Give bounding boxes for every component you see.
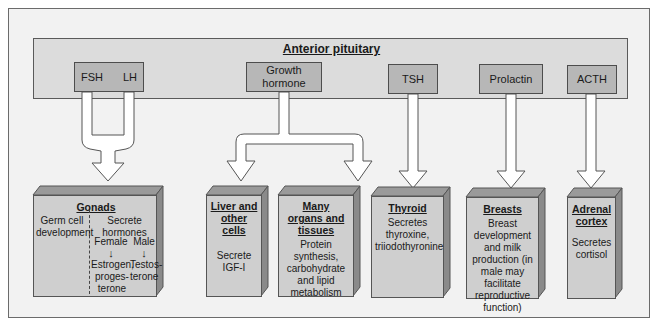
male-hormones-text: Testos- terone — [130, 259, 158, 283]
male-arrow-icon: ↓ — [130, 247, 158, 259]
liver-title: Liver and other cells — [207, 200, 261, 236]
gonads-divider — [89, 210, 90, 294]
adrenal-text: Secretes cortisol — [568, 237, 615, 261]
germ-cell-text: Germ cell development — [36, 215, 88, 239]
organs-title: Many organs and tissues — [279, 200, 353, 236]
gonads-title: Gonads — [34, 201, 158, 213]
female-hormones-text: Estrogen, proges- terone — [91, 259, 133, 295]
adrenal-title: Adrenal cortex — [568, 203, 615, 227]
liver-text: Secrete IGF-I — [207, 250, 261, 274]
breasts-title: Breasts — [467, 203, 538, 215]
female-arrow-icon: ↓ — [92, 247, 130, 259]
thyroid-text: Secretes thyroxine, triiodothyronine — [372, 217, 443, 253]
thyroid-title: Thyroid — [372, 202, 443, 214]
breasts-text: Breast development and milk production (… — [467, 218, 538, 314]
organs-text: Protein synthesis, carbohydrate and lipi… — [279, 239, 353, 299]
